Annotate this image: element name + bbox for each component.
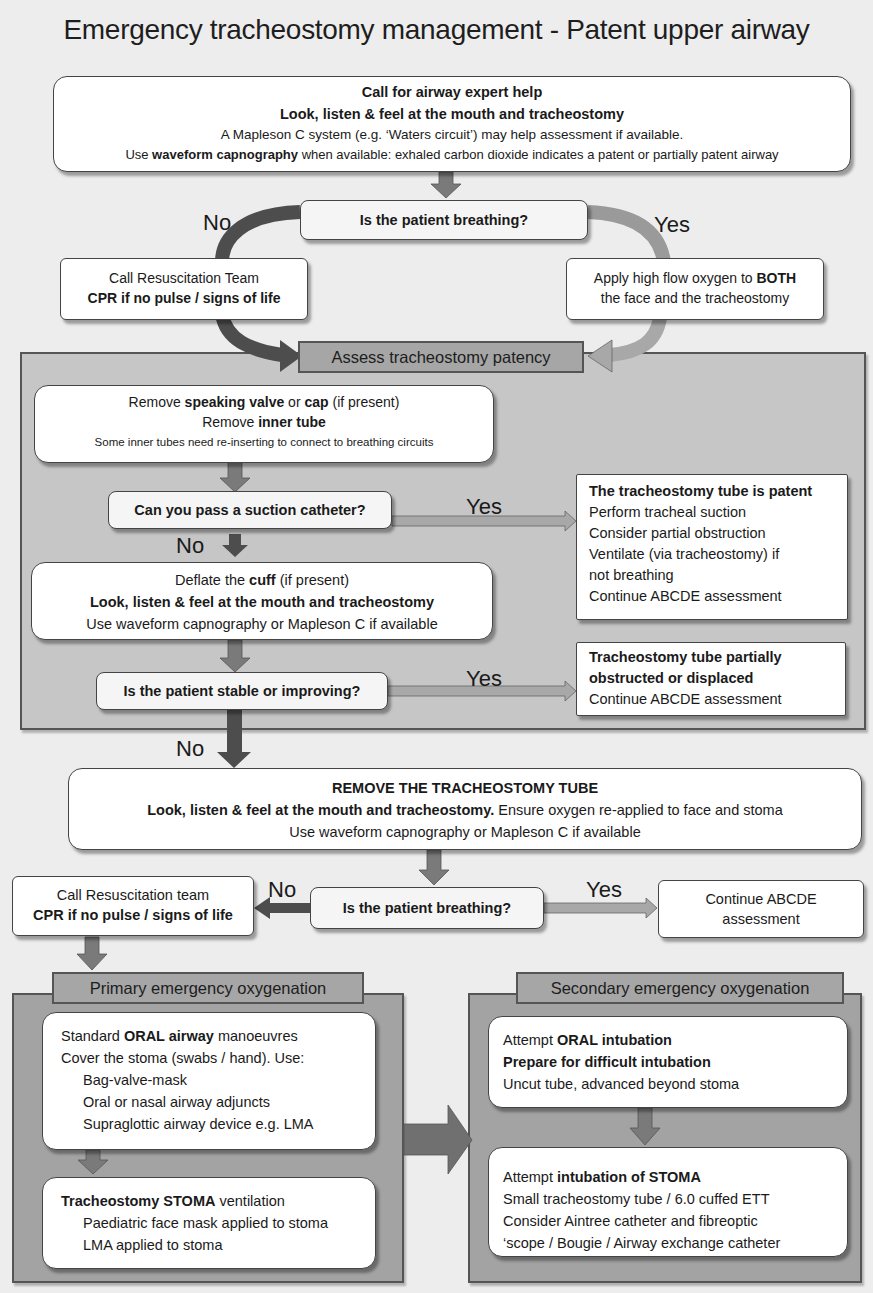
oral-item: Supraglottic airway device e.g. LMA — [61, 1113, 375, 1135]
resus-line-2: CPR if no pulse / signs of life — [61, 288, 307, 308]
start-line-1: Call for airway expert help — [54, 81, 850, 103]
cuff-line-3: Use waveform capnography or Mapleson C i… — [32, 613, 492, 635]
resus-line-1: Call Resuscitation Team — [61, 268, 307, 288]
oral-airway-box: Standard ORAL airway manoeuvres Cover th… — [42, 1012, 376, 1150]
breathing-question-2: Is the patient breathing? — [310, 887, 544, 929]
suction-no-label: No — [176, 533, 204, 559]
start-line-4: Use waveform capnography when available:… — [54, 145, 850, 165]
tube-patent-box: The tracheostomy tube is patent Perform … — [576, 474, 848, 620]
oral-intubation-box: Attempt ORAL intubation Prepare for diff… — [488, 1016, 848, 1108]
primary-oxygenation-header: Primary emergency oxygenation — [52, 972, 364, 1004]
remove-line-1: Remove speaking valve or cap (if present… — [35, 392, 493, 412]
secondary-oxygenation-header: Secondary emergency oxygenation — [516, 972, 844, 1004]
continue-line-1: Continue ABCDE — [659, 889, 863, 909]
patent-line: Ventilate (via tracheostomy) if — [589, 544, 847, 565]
oxygen-line-1: Apply high flow oxygen to BOTH — [567, 268, 823, 288]
oxygen-line-2: the face and the tracheostomy — [567, 288, 823, 308]
suction-yes-label: Yes — [466, 494, 502, 520]
patent-line: Consider partial obstruction — [589, 523, 847, 544]
stoma-line-1: Tracheostomy STOMA ventilation — [61, 1190, 375, 1212]
high-flow-oxygen-box: Apply high flow oxygen to BOTH the face … — [566, 258, 824, 320]
stoma-intubation-line: ‘scope / Bougie / Airway exchange cathet… — [503, 1232, 847, 1254]
stoma-ventilation-box: Tracheostomy STOMA ventilation Paediatri… — [42, 1177, 376, 1269]
partial-title-1: Tracheostomy tube partially — [589, 647, 845, 668]
call-resus-team-box: Call Resuscitation Team CPR if no pulse … — [60, 258, 308, 320]
patent-line: not breathing — [589, 565, 847, 586]
stable-improving-question: Is the patient stable or improving? — [96, 672, 388, 710]
oral-line-1: Standard ORAL airway manoeuvres — [61, 1025, 375, 1047]
q2-no-label: No — [268, 877, 296, 903]
stoma-item: Paediatric face mask applied to stoma — [61, 1212, 375, 1234]
intubation-line-3: Uncut tube, advanced beyond stoma — [503, 1073, 847, 1095]
resus2-line-1: Call Resuscitation team — [13, 885, 253, 905]
patent-line: Continue ABCDE assessment — [589, 586, 847, 607]
suction-catheter-question: Can you pass a suction catheter? — [108, 491, 392, 529]
stable-no-label: No — [176, 736, 204, 762]
stoma-intubation-line: Consider Aintree catheter and fibreoptic — [503, 1210, 847, 1232]
continue-abcde-box: Continue ABCDE assessment — [658, 880, 864, 938]
remove-speaking-valve-box: Remove speaking valve or cap (if present… — [34, 385, 494, 463]
remove-tube-line-2: Look, listen & feel at the mouth and tra… — [69, 799, 861, 821]
intubation-line-2: Prepare for difficult intubation — [503, 1051, 847, 1073]
q1-yes-label: Yes — [654, 212, 690, 238]
partially-obstructed-box: Tracheostomy tube partially obstructed o… — [576, 642, 846, 716]
deflate-cuff-box: Deflate the cuff (if present) Look, list… — [31, 562, 493, 640]
q2-yes-label: Yes — [586, 877, 622, 903]
stoma-item: LMA applied to stoma — [61, 1234, 375, 1256]
oral-item: Bag-valve-mask — [61, 1069, 375, 1091]
oral-item: Oral or nasal airway adjuncts — [61, 1091, 375, 1113]
cuff-line-1: Deflate the cuff (if present) — [32, 569, 492, 591]
intubation-line-1: Attempt ORAL intubation — [503, 1029, 847, 1051]
remove-line-3: Some inner tubes need re-inserting to co… — [35, 432, 493, 452]
stable-yes-label: Yes — [466, 666, 502, 692]
patent-title: The tracheostomy tube is patent — [589, 481, 847, 502]
continue-line-2: assessment — [659, 909, 863, 929]
partial-line: Continue ABCDE assessment — [589, 689, 845, 710]
patent-line: Perform tracheal suction — [589, 502, 847, 523]
start-line-2: Look, listen & feel at the mouth and tra… — [54, 103, 850, 125]
cuff-line-2: Look, listen & feel at the mouth and tra… — [32, 591, 492, 613]
q1-no-label: No — [203, 210, 231, 236]
remove-tube-line-3: Use waveform capnography or Mapleson C i… — [69, 821, 861, 843]
stoma-intubation-box: Attempt intubation of STOMA Small trache… — [488, 1147, 848, 1257]
breathing-question-1: Is the patient breathing? — [300, 200, 588, 240]
arrow-down-icon — [431, 172, 461, 198]
assess-patency-header: Assess tracheostomy patency — [298, 341, 584, 373]
stoma-intubation-line: Small tracheostomy tube / 6.0 cuffed ETT — [503, 1188, 847, 1210]
page-title: Emergency tracheostomy management - Pate… — [0, 14, 873, 46]
remove-tube-line-1: REMOVE THE TRACHEOSTOMY TUBE — [69, 777, 861, 799]
oral-line-2: Cover the stoma (swabs / hand). Use: — [61, 1047, 375, 1069]
remove-line-2: Remove inner tube — [35, 412, 493, 432]
resus2-line-2: CPR if no pulse / signs of life — [13, 905, 253, 925]
partial-title-2: obstructed or displaced — [589, 668, 845, 689]
start-line-3: A Mapleson C system (e.g. ‘Waters circui… — [54, 125, 850, 145]
start-box: Call for airway expert help Look, listen… — [53, 76, 851, 172]
call-resus-team-box-2: Call Resuscitation team CPR if no pulse … — [12, 876, 254, 936]
remove-tracheostomy-tube-box: REMOVE THE TRACHEOSTOMY TUBE Look, liste… — [68, 768, 862, 850]
stoma-intubation-line-1: Attempt intubation of STOMA — [503, 1166, 847, 1188]
